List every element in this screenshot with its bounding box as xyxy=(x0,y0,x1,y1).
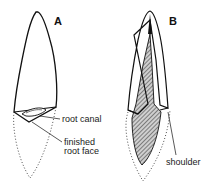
annotation-root-face: root face xyxy=(64,147,99,156)
panel-label-a: A xyxy=(54,15,62,27)
tooth-b xyxy=(126,11,176,181)
annotation-root-canal: root canal xyxy=(62,115,102,124)
tooth-a xyxy=(14,12,62,178)
panel-label-b: B xyxy=(169,15,177,27)
annotation-shoulder: shoulder xyxy=(166,158,201,167)
